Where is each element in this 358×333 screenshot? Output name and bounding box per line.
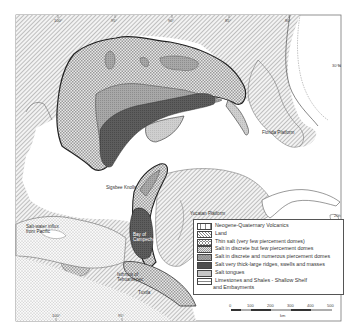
swatch-few-domes-icon bbox=[197, 246, 212, 253]
label-sigsbee-knolls: Sigsbee Knolls bbox=[106, 185, 136, 190]
label-bay-of-campeche: Bay of Campeche bbox=[133, 232, 153, 242]
swatch-limestones-icon bbox=[197, 278, 212, 285]
legend-label: Salt very thick-large ridges, swells and… bbox=[215, 261, 325, 268]
legend-label: Salt in discrete but few piercement dome… bbox=[215, 245, 313, 252]
scale-tick-5: 500 bbox=[327, 303, 334, 308]
legend-item: Land bbox=[197, 230, 340, 238]
tick-top-3: 85° bbox=[225, 18, 231, 23]
tick-top-4: 80° bbox=[285, 18, 291, 23]
legend-label: Salt in discrete and numerous piercement… bbox=[215, 253, 330, 260]
legend-label: and Embayments bbox=[213, 284, 254, 291]
swatch-land-icon bbox=[197, 231, 212, 238]
swatch-thick-salt-icon bbox=[197, 262, 212, 269]
tick-bottom-1: 95° bbox=[118, 313, 124, 318]
label-salt-water-influx: Salt-water influx from Pacific bbox=[26, 224, 62, 234]
legend-label: Limestones and Shales - Shallow Shelf bbox=[215, 277, 307, 284]
tick-top-2: 90° bbox=[168, 18, 174, 23]
legend-label: Thin salt (very few piercement domes) bbox=[215, 238, 305, 245]
legend-label: Salt tongues bbox=[215, 269, 244, 276]
scale-tick-1: 100 bbox=[247, 303, 254, 308]
legend: Neogene-Quaternary Volcanics Land Thin s… bbox=[193, 219, 344, 295]
label-yucatan-platform: Yucatan Platform bbox=[190, 211, 225, 216]
legend-label: Neogene-Quaternary Volcanics bbox=[215, 222, 289, 229]
tick-top-0: 100° bbox=[54, 18, 62, 23]
scale-tick-2: 200 bbox=[267, 303, 274, 308]
legend-item: Salt very thick-large ridges, swells and… bbox=[197, 261, 340, 269]
swatch-thin-salt-icon bbox=[197, 239, 212, 246]
legend-item: Neogene-Quaternary Volcanics bbox=[197, 222, 340, 230]
legend-label: Land bbox=[215, 230, 227, 237]
label-tuxtla: Tuxtla bbox=[138, 290, 150, 295]
swatch-salt-tongues-icon bbox=[197, 270, 212, 277]
legend-item: Limestones and Shales - Shallow Shelf bbox=[197, 277, 340, 285]
legend-item: Salt tongues bbox=[197, 269, 340, 277]
legend-item: Thin salt (very few piercement domes) bbox=[197, 238, 340, 246]
label-florida-platform: Florida Platform bbox=[262, 130, 294, 135]
swatch-numerous-domes-icon bbox=[197, 254, 212, 261]
tick-top-1: 95° bbox=[111, 18, 117, 23]
legend-item: Salt in discrete and numerous piercement… bbox=[197, 253, 340, 261]
tick-right-1: 20° bbox=[334, 213, 340, 218]
label-isthmus: Isthmus of Tehuantepec bbox=[117, 272, 151, 282]
scale-tick-0: 0 bbox=[229, 303, 231, 308]
tick-bottom-0: 100° bbox=[52, 313, 60, 318]
scale-unit: km bbox=[280, 313, 285, 318]
swatch-volcanics-icon bbox=[197, 223, 212, 230]
scale-tick-4: 400 bbox=[307, 303, 314, 308]
scale-tick-3: 300 bbox=[287, 303, 294, 308]
tick-right-0: 30°N bbox=[332, 63, 341, 68]
legend-item: Salt in discrete but few piercement dome… bbox=[197, 245, 340, 253]
legend-item-continued: and Embayments bbox=[197, 284, 340, 292]
